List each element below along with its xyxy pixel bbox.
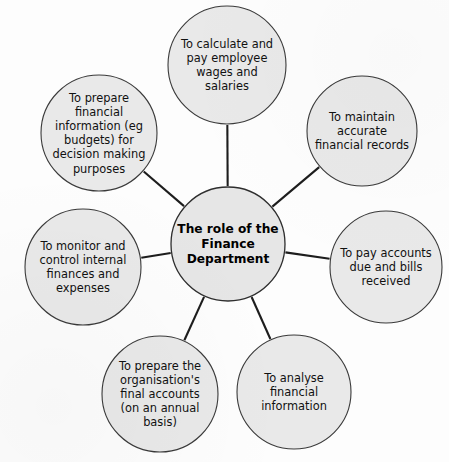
finance-department-diagram: To calculate andpay employeewages andsal… (0, 0, 449, 462)
connector-line-prepare-financial-information (144, 171, 184, 206)
node-analyse-financial-information[interactable]: To analysefinancialinformation (237, 335, 351, 449)
node-prepare-financial-information[interactable]: To preparefinancialinformation (egbudget… (41, 75, 157, 191)
node-prepare-final-accounts[interactable]: To prepare theorganisation'sfinal accoun… (102, 336, 218, 452)
center-node-group: The role of theFinanceDepartment (171, 187, 285, 301)
diagram-canvas: To calculate andpay employeewages andsal… (0, 0, 449, 462)
node-maintain-accurate-records[interactable]: To maintainaccuratefinancial records (307, 76, 417, 186)
center-node[interactable]: The role of theFinanceDepartment (171, 187, 285, 301)
connector-line-analyse-financial-information (252, 297, 271, 339)
connector-line-pay-accounts-bills (285, 252, 329, 258)
node-pay-accounts-bills[interactable]: To pay accountsdue and billsreceived (330, 211, 442, 323)
node-label-analyse-financial-information: To analysefinancialinformation (261, 370, 327, 412)
node-calculate-pay-wages[interactable]: To calculate andpay employeewages andsal… (168, 6, 286, 124)
node-monitor-control-finances[interactable]: To monitor andcontrol internalfinances a… (25, 209, 141, 325)
connector-line-prepare-final-accounts (184, 297, 204, 340)
connector-line-monitor-control-finances (141, 253, 170, 258)
connector-line-maintain-accurate-records (272, 167, 319, 207)
